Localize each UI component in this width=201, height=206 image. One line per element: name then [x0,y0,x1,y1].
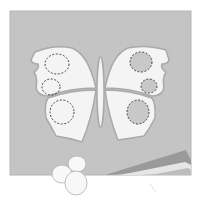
right-spot-2 [141,79,157,93]
butterfly-body [97,57,104,127]
right-spot-1 [130,52,152,72]
cotton-ball-front [65,171,87,195]
butterfly-craft-illustration [0,0,201,206]
faint-mark [150,184,156,192]
right-spot-3 [127,100,149,124]
